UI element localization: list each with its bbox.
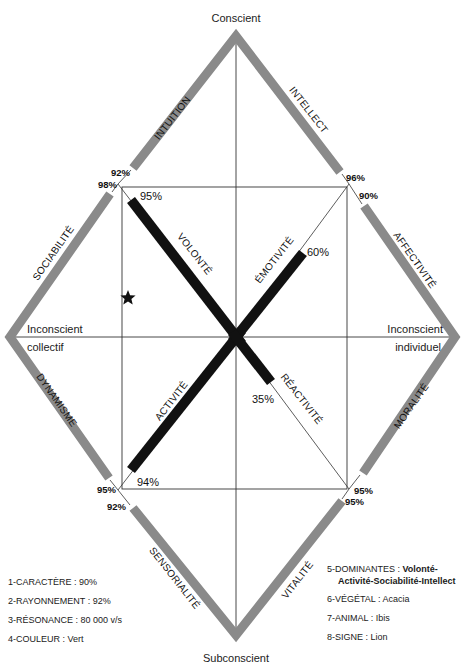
label-reactivite: RÉACTIVITÉ [279, 371, 326, 426]
label-intuition: INTUITION [152, 94, 193, 142]
pole-right-1: Inconscient [387, 323, 443, 335]
pct-intellect: 96% [346, 172, 366, 183]
pole-right-2: individuel [395, 341, 441, 353]
pct-reactivite: 35% [252, 393, 274, 405]
legend-item-continued: Activité-Sociabilité-Intellect [327, 575, 456, 587]
legend-left: 1-CARACTÈRE : 90% 2-RAYONNEMENT : 92% 3-… [8, 573, 122, 649]
legend-item: 4-COULEUR : Vert [8, 630, 122, 649]
pole-top: Conscient [212, 12, 261, 24]
pct-activite: 94% [137, 476, 159, 488]
pct-sociabilite: 98% [98, 179, 118, 190]
pct-emotivite: 60% [307, 246, 329, 258]
legend-right: 5-DOMINANTES : Volonté- Activité-Sociabi… [327, 560, 456, 647]
pct-sensorialite: 92% [107, 501, 127, 512]
pct-moralite: 95% [354, 485, 374, 496]
pct-affectivite: 90% [359, 190, 379, 201]
pct-volonte: 95% [140, 190, 162, 202]
pct-intuition: 92% [111, 167, 131, 178]
pct-dynamisme: 95% [97, 484, 117, 495]
pole-bottom: Subconscient [203, 652, 269, 664]
legend-item: 7-ANIMAL : Ibis [327, 609, 456, 628]
label-moralite: MORALITÉ [391, 381, 431, 431]
pct-vitalite: 95% [345, 496, 365, 507]
bar-reactivite [232, 332, 271, 382]
pole-left-1: Inconscient [27, 323, 83, 335]
legend-item: 2-RAYONNEMENT : 92% [8, 592, 122, 611]
legend-item: 1-CARACTÈRE : 90% [8, 573, 122, 592]
legend-item: 3-RÉSONANCE : 80 000 v/s [8, 611, 122, 630]
legend-item: 6-VÉGÉTAL : Acacia [327, 590, 456, 609]
legend-item: 8-SIGNE : Lion [327, 628, 456, 647]
star-icon [120, 290, 135, 304]
pole-left-2: collectif [27, 341, 65, 353]
bar-volonte [131, 200, 242, 344]
label-dynamisme: DYNAMISME [34, 371, 79, 428]
bar-activite [131, 330, 242, 470]
